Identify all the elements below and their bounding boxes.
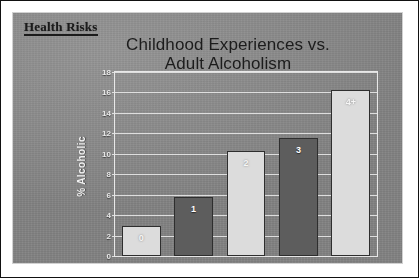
bar-value-label: 4+ — [332, 97, 369, 107]
y-axis-tick-label: 4 — [107, 211, 111, 220]
y-axis-tick-label: 6 — [107, 190, 111, 199]
y-axis-tick-label: 10 — [102, 149, 111, 158]
y-axis-tick-label: 16 — [102, 88, 111, 97]
bar-value-label: 1 — [175, 204, 212, 214]
bar-2[interactable]: 2 — [227, 151, 266, 256]
y-axis-tick-mark — [112, 256, 116, 257]
bar-1[interactable]: 1 — [174, 197, 213, 256]
bar-value-label: 2 — [228, 158, 265, 168]
bar-series: 01234+ — [115, 72, 377, 256]
bar-value-label: 0 — [123, 233, 160, 243]
y-axis-label: % Alcoholic — [76, 122, 87, 212]
gridline: 0 — [115, 256, 377, 257]
chart-title: Childhood Experiences vs. Adult Alcoholi… — [88, 35, 368, 73]
chart-title-line-2: Adult Alcoholism — [88, 54, 368, 73]
y-axis-tick-label: 0 — [107, 252, 111, 261]
bar-3[interactable]: 3 — [279, 138, 318, 256]
bar-0[interactable]: 0 — [122, 226, 161, 256]
y-axis-tick-label: 12 — [102, 129, 111, 138]
slide-header-title: Health Risks — [24, 20, 98, 36]
picture-frame: Health Risks Childhood Experiences vs. A… — [0, 0, 419, 278]
y-axis-tick-label: 14 — [102, 108, 111, 117]
presentation-slide: Health Risks Childhood Experiences vs. A… — [13, 13, 402, 263]
y-axis-tick-label: 2 — [107, 231, 111, 240]
bar-value-label: 3 — [280, 145, 317, 155]
bar-4plus[interactable]: 4+ — [331, 90, 370, 256]
bar-chart: 024681012141618 01234+ — [102, 71, 378, 257]
y-axis-tick-label: 8 — [107, 170, 111, 179]
chart-title-line-1: Childhood Experiences vs. — [88, 35, 368, 54]
plot-area: 024681012141618 01234+ — [114, 71, 378, 257]
